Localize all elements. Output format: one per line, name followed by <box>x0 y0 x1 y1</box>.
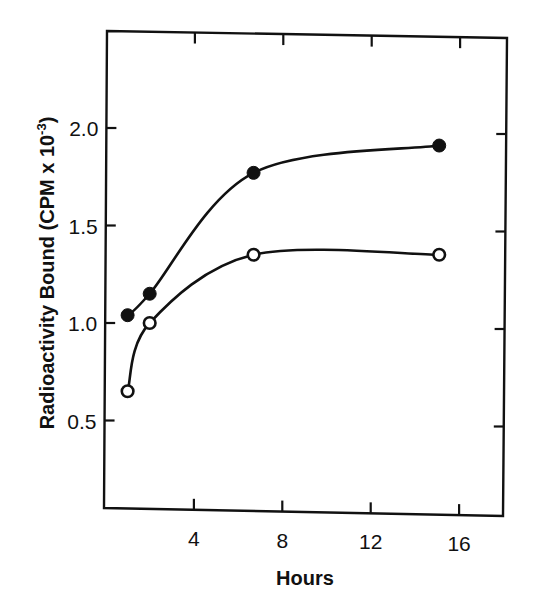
filled-circle-marker <box>433 139 446 152</box>
x-tick-label: 12 <box>359 530 382 553</box>
y-tick-label: 1.0 <box>68 312 97 335</box>
x-tick-label: 16 <box>447 532 470 555</box>
series-filled-circle <box>121 139 446 322</box>
x-axis-ticks: 481216 <box>188 33 471 556</box>
x-tick-label: 8 <box>276 529 288 552</box>
y-axis-title-main: Radioactivity Bound (CPM x 10 <box>36 135 58 430</box>
line-chart: 481216 0.51.01.52.0 Hours Radioactivity … <box>0 0 535 616</box>
x-tick-label: 4 <box>188 527 200 550</box>
y-axis-ticks: 0.51.01.52.0 <box>67 117 506 433</box>
open-circle-marker <box>144 317 156 329</box>
x-axis-title: Hours <box>276 567 334 589</box>
y-tick-label: 2.0 <box>69 117 98 140</box>
filled-circle-marker <box>247 166 260 179</box>
filled-circle-marker <box>143 287 156 300</box>
y-tick-label: 1.5 <box>69 215 98 238</box>
series-open-circle <box>122 249 445 397</box>
y-axis-title: Radioactivity Bound (CPM x 10-3) <box>34 117 58 430</box>
y-axis-title-suffix: ) <box>36 117 58 124</box>
filled-circle-marker <box>121 309 134 322</box>
open-circle-marker <box>248 249 260 261</box>
series-curve <box>128 250 440 392</box>
open-circle-marker <box>122 385 134 397</box>
series-curve <box>128 146 440 316</box>
y-axis-title-exponent: -3 <box>34 123 49 135</box>
data-series <box>121 139 446 397</box>
open-circle-marker <box>433 249 445 261</box>
y-tick-label: 0.5 <box>67 410 96 433</box>
